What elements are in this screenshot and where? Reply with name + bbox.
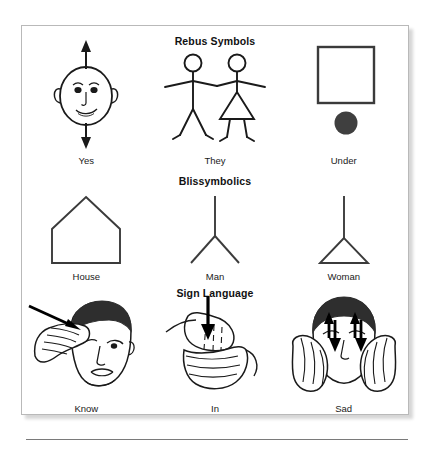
symbol-label-sad: Sad: [335, 398, 352, 414]
square-over-dot-symbol: [279, 43, 408, 151]
symbol-cell-under: Under: [279, 50, 408, 166]
symbol-row-sign-language: Know: [22, 302, 408, 414]
symbol-cell-know: Know: [22, 302, 151, 414]
symbol-label-man: Man: [206, 269, 224, 282]
symbol-cell-house: House: [22, 190, 151, 282]
section-heading-blissymbolics: Blissymbolics: [22, 175, 408, 187]
hand-to-forehead-sign: [22, 298, 151, 398]
symbol-cell-man: Man: [151, 190, 280, 282]
symbol-label-house: House: [73, 269, 100, 282]
symbol-row-blissymbolics: House Man: [22, 190, 408, 282]
symbol-label-under: Under: [331, 151, 357, 166]
symbol-cell-they: They: [151, 50, 280, 166]
hand-into-cupped-hand-sign: [151, 294, 280, 398]
symbol-cell-yes: Yes: [22, 50, 151, 166]
two-stick-figures-holding-hands-symbol: [151, 47, 280, 151]
two-hands-down-face-sign: [279, 294, 408, 398]
symbol-cell-in: In: [151, 302, 280, 414]
symbol-cell-woman: Woman: [279, 190, 408, 282]
nodding-head-symbol: [22, 39, 151, 151]
symbol-label-yes: Yes: [79, 151, 95, 166]
symbol-label-in: In: [211, 398, 219, 414]
bottom-divider-rule: [26, 439, 408, 440]
symbol-label-know: Know: [74, 398, 98, 414]
stem-with-legs-symbol: [151, 190, 280, 269]
symbol-label-they: They: [204, 151, 225, 166]
figure-frame: Rebus Symbols: [21, 25, 409, 415]
symbol-label-woman: Woman: [327, 269, 360, 282]
symbol-row-rebus: Yes: [22, 50, 408, 166]
stem-with-skirt-triangle-symbol: [279, 190, 408, 269]
symbol-cell-sad: Sad: [279, 302, 408, 414]
pentagon-house-symbol: [22, 190, 151, 269]
